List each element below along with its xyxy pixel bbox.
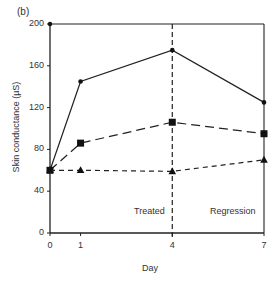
annotation-regression: Regression (210, 206, 256, 216)
y-tick-label: 40 (22, 185, 44, 195)
x-tick-label: 0 (42, 240, 58, 250)
marker-square (261, 130, 268, 137)
marker-circle (170, 48, 175, 53)
x-axis-label: Day (130, 263, 170, 273)
annotation-treated: Treated (134, 206, 165, 216)
x-tick-label: 7 (256, 240, 272, 250)
marker-square (77, 140, 84, 147)
y-tick-label: 120 (22, 102, 44, 112)
marker-circle (78, 79, 83, 84)
x-tick-label: 4 (164, 240, 180, 250)
marker-triangle (260, 156, 268, 163)
marker-circle (262, 100, 267, 105)
series-line-circle-solid (50, 50, 264, 170)
panel-label: (b) (17, 6, 29, 17)
y-axis-label: Skin conductance (µS) (11, 67, 21, 187)
x-tick-label: 1 (73, 240, 89, 250)
marker-square (169, 119, 176, 126)
y-tick-label: 80 (22, 143, 44, 153)
y-tick-label: 200 (22, 18, 44, 28)
y-tick-label: 0 (22, 227, 44, 237)
y-tick-label: 160 (22, 60, 44, 70)
chart-plot (0, 0, 278, 281)
